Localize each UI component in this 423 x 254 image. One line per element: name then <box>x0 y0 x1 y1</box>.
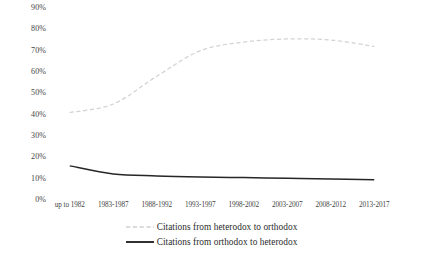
legend-label: Citations from heterodox to orthodox <box>157 222 298 232</box>
y-axis-tick-label: 60% <box>6 67 46 77</box>
plot-area <box>48 8 396 200</box>
y-axis-tick-label: 20% <box>6 152 46 162</box>
y-axis-tick-label: 50% <box>6 88 46 98</box>
y-axis-tick-label: 90% <box>6 3 46 13</box>
x-axis-tick-label: 1988-1992 <box>132 200 182 210</box>
chart-legend: Citations from heterodox to orthodox Cit… <box>0 219 423 249</box>
y-axis-tick-label: 10% <box>6 174 46 184</box>
x-axis-tick-label: 1993-1997 <box>175 200 225 210</box>
y-axis-tick-label: 30% <box>6 131 46 141</box>
x-axis: up to 19821983-19871988-19921993-1997199… <box>44 200 400 214</box>
plot-svg <box>48 8 396 200</box>
dashed-line-marker <box>126 222 154 232</box>
series-orthodox-to-heterodox-line <box>70 166 375 180</box>
x-axis-tick-label: 1983-1987 <box>88 200 138 210</box>
legend-item-heterodox-to-orthodox: Citations from heterodox to orthodox <box>0 219 423 234</box>
x-axis-tick-label: up to 1982 <box>45 200 95 210</box>
line-chart: 90%80%70%60%50%40%30%20%10%0% up to 1982… <box>0 0 423 254</box>
x-axis-tick-label: 1998-2002 <box>219 200 269 210</box>
x-axis-tick-label: 2008-2012 <box>306 200 356 210</box>
y-axis-tick-label: 80% <box>6 24 46 34</box>
x-axis-tick-label: 2013-2017 <box>349 200 399 210</box>
y-axis-tick-label: 40% <box>6 110 46 120</box>
y-axis-tick-label: 0% <box>6 195 46 205</box>
y-axis-tick-label: 70% <box>6 46 46 56</box>
legend-label: Citations from orthodox to heterodox <box>157 237 298 247</box>
series-heterodox-to-orthodox-line <box>70 39 375 113</box>
x-axis-tick-label: 2003-2007 <box>262 200 312 210</box>
y-axis: 90%80%70%60%50%40%30%20%10%0% <box>4 0 46 220</box>
solid-line-marker <box>126 237 154 247</box>
legend-item-orthodox-to-heterodox: Citations from orthodox to heterodox <box>0 234 423 249</box>
